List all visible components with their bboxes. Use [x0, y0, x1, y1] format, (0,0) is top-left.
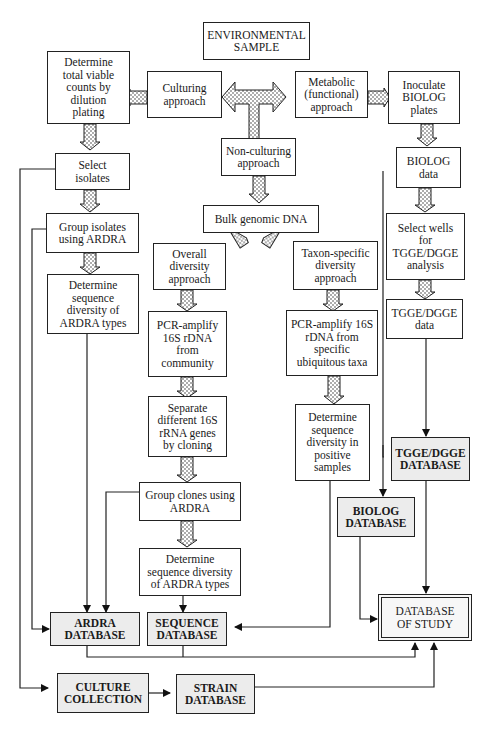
- node-taxon-specific: Taxon-specific diversity approach: [293, 241, 378, 290]
- node-inoculate-biolog: Inoculate BIOLOG plates: [388, 71, 460, 124]
- node-select-wells: Select wells for TGGE/DGGE analysis: [386, 213, 465, 280]
- block-arrow-down-icon: [80, 253, 100, 274]
- node-ardra-database: ARDRA DATABASE: [50, 612, 140, 646]
- node-determine-viable-counts: Determine total viable counts by dilutio…: [47, 51, 130, 124]
- node-sequence-database: SEQUENCE DATABASE: [147, 612, 227, 646]
- node-determine-seq-div-ardra-mid: Determine sequence diversity of ARDRA ty…: [139, 548, 241, 596]
- node-culturing-approach: Culturing approach: [147, 71, 222, 118]
- block-arrow-right-icon: [368, 88, 390, 107]
- block-arrow-down-icon: [415, 188, 435, 212]
- node-bulk-genomic-dna: Bulk genomic DNA: [203, 205, 319, 233]
- node-biolog-database: BIOLOG DATABASE: [337, 497, 415, 537]
- node-overall-diversity: Overall diversity approach: [153, 243, 226, 290]
- node-tgge-database: TGGE/DGGE DATABASE: [391, 437, 470, 481]
- flowchart-canvas: ENVIRONMENTAL SAMPLE Culturing approach …: [0, 0, 488, 732]
- block-arrow-down-icon: [177, 457, 197, 482]
- block-arrow-down-icon: [324, 376, 344, 404]
- node-pcr-community: PCR-amplify 16S rDNA from community: [148, 311, 227, 377]
- node-group-isolates: Group isolates using ARDRA: [46, 213, 139, 253]
- block-arrow-down-icon: [415, 280, 435, 299]
- node-select-isolates: Select isolates: [55, 153, 130, 190]
- block-arrow-down-icon: [80, 124, 100, 150]
- node-culture-collection: CULTURE COLLECTION: [57, 673, 149, 713]
- node-determine-seq-div-ardra-left: Determine sequence diversity of ARDRA ty…: [47, 274, 139, 334]
- node-strain-database: STRAIN DATABASE: [176, 674, 255, 714]
- node-tgge-data: TGGE/DGGE data: [386, 299, 463, 339]
- node-biolog-data: BIOLOG data: [396, 147, 461, 188]
- node-database-of-study: DATABASE OF STUDY: [378, 594, 472, 641]
- node-metabolic-approach: Metabolic (functional) approach: [295, 71, 368, 118]
- node-determine-seq-div-positive: Determine sequence diversity in positive…: [295, 404, 370, 481]
- block-arrow-down-icon: [417, 124, 437, 146]
- node-environmental-sample: ENVIRONMENTAL SAMPLE: [203, 22, 310, 60]
- block-arrow-down-icon: [177, 521, 197, 547]
- block-arrow-down-icon: [177, 377, 197, 398]
- node-pcr-specific: PCR-amplify 16S rDNA from specific ubiqu…: [286, 310, 378, 376]
- block-arrow-down-icon: [80, 190, 100, 212]
- block-arrow-down-icon: [177, 290, 197, 311]
- block-arrow-down-icon: [323, 290, 343, 311]
- node-non-culturing-approach: Non-culturing approach: [221, 138, 296, 176]
- block-arrow-down-icon: [249, 176, 269, 203]
- node-group-clones: Group clones using ARDRA: [139, 482, 241, 521]
- node-separate-genes: Separate different 16S rRNA genes by clo…: [148, 396, 227, 457]
